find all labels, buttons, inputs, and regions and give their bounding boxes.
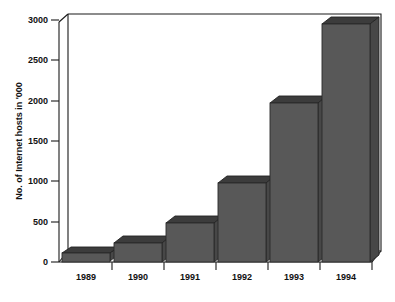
- bar-1993[interactable]: [270, 96, 327, 262]
- y-axis-ticks: 3000 2500 2000 1500 1000 500 0: [28, 15, 59, 267]
- x-tick-label-1992: 1992: [232, 272, 252, 282]
- y-tick-label-2500: 2500: [28, 55, 48, 65]
- bar-1994-front: [322, 24, 370, 262]
- chart-canvas: 3000 2500 2000 1500 1000 500 0 No. of In…: [0, 0, 395, 302]
- bar-1994[interactable]: [322, 17, 379, 262]
- x-tick-label-1994: 1994: [336, 272, 356, 282]
- x-tick-label-1989: 1989: [76, 272, 96, 282]
- bar-1991-top: [166, 216, 223, 223]
- bar-chart: 3000 2500 2000 1500 1000 500 0 No. of In…: [0, 0, 395, 302]
- bar-1992-top: [218, 176, 275, 183]
- y-tick-label-2000: 2000: [28, 96, 48, 106]
- x-tick-label-1991: 1991: [180, 272, 200, 282]
- bar-1989[interactable]: [62, 247, 119, 262]
- y-tick-label-1000: 1000: [28, 176, 48, 186]
- y-axis-title: No. of Internet hosts in '000: [14, 82, 24, 200]
- y-tick-label-1500: 1500: [28, 136, 48, 146]
- x-axis-labels: 1989 1990 1991 1992 1993 1994: [76, 272, 356, 282]
- bar-1994-top: [322, 17, 379, 24]
- bar-1994-side: [370, 17, 379, 262]
- y-tick-label-3000: 3000: [28, 15, 48, 25]
- bars-group: [62, 17, 379, 262]
- y-tick-label-500: 500: [33, 217, 48, 227]
- x-axis-ticks: [112, 262, 372, 270]
- bar-1990-front: [114, 243, 162, 262]
- bar-1993-front: [270, 103, 318, 262]
- x-tick-label-1990: 1990: [128, 272, 148, 282]
- x-tick-label-1993: 1993: [284, 272, 304, 282]
- bar-1992-front: [218, 183, 266, 262]
- bar-1990-top: [114, 236, 171, 243]
- bar-1990[interactable]: [114, 236, 171, 262]
- bar-1992[interactable]: [218, 176, 275, 262]
- bar-1989-front: [62, 253, 110, 262]
- bar-1993-top: [270, 96, 327, 103]
- y-tick-label-0: 0: [43, 257, 48, 267]
- bar-1991-front: [166, 223, 214, 262]
- bar-1989-top: [62, 247, 119, 253]
- bar-1991[interactable]: [166, 216, 223, 262]
- depth-edge-top-left: [59, 14, 68, 22]
